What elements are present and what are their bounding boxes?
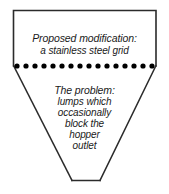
hopper-body-outline bbox=[14, 11, 157, 67]
hopper-diagram: Proposed modification: a stainless steel… bbox=[0, 0, 169, 194]
funnel-wall-left bbox=[14, 66, 72, 181]
hopper-outline-svg bbox=[0, 0, 169, 194]
funnel-wall-right bbox=[100, 66, 156, 181]
stainless-steel-grid-dots bbox=[14, 63, 154, 68]
